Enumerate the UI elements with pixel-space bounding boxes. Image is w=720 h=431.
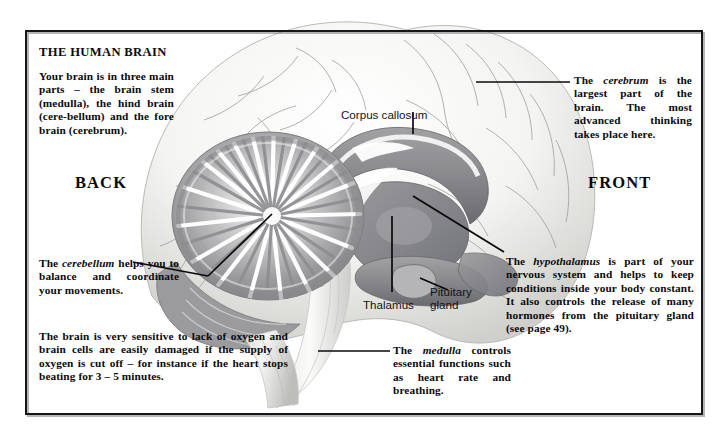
- intro-text: Your brain is in three main parts – the …: [39, 70, 174, 137]
- callout-medulla-term: medulla: [423, 344, 461, 356]
- label-pituitary-gland: Pituitary gland: [430, 285, 472, 311]
- callout-hypothalamus: The hypothalamus is part of your nervous…: [506, 255, 694, 335]
- figure-page: THE HUMAN BRAIN Your brain is in three m…: [0, 0, 720, 431]
- callout-cerebrum: The cerebrum is the largest part of the …: [574, 74, 692, 141]
- callout-medulla: The medulla controls essential functions…: [393, 344, 511, 398]
- callout-oxygen-note: The brain is very sensitive to lack of o…: [39, 330, 288, 384]
- callout-hypothalamus-term: hypothalamus: [533, 255, 600, 267]
- callout-cerebellum: The cerebellum helps you to balance and …: [39, 257, 179, 297]
- page-title: THE HUMAN BRAIN: [39, 45, 219, 60]
- callout-medulla-pre: The: [393, 344, 423, 356]
- label-thalamus: Thalamus: [363, 298, 414, 311]
- orientation-front: FRONT: [588, 173, 651, 193]
- callout-cerebellum-pre: The: [39, 257, 62, 269]
- callout-cerebrum-term: cerebrum: [603, 74, 648, 86]
- orientation-back: BACK: [75, 173, 127, 193]
- callout-cerebrum-pre: The: [574, 74, 603, 86]
- label-corpus-callosum: Corpus callosum: [341, 108, 427, 121]
- callout-cerebellum-term: cerebellum: [62, 257, 114, 269]
- callout-hypothalamus-pre: The: [506, 255, 533, 267]
